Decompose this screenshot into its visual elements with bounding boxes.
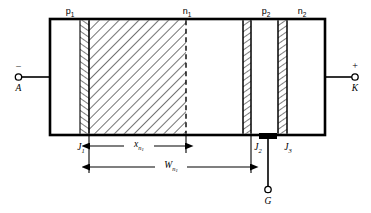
j2-strip-fill: [243, 20, 251, 133]
j3-strip-fill: [278, 20, 287, 133]
anode-terminal-node[interactable]: [15, 74, 21, 80]
label-n2: n2: [298, 6, 307, 18]
layer-labels: p1 n1 p2 n2: [66, 6, 307, 18]
j1-strip-fill: [80, 20, 89, 133]
label-j1: J1: [77, 142, 84, 154]
anode-polarity-sign: −: [16, 61, 22, 72]
label-p2: p2: [262, 6, 271, 18]
figure-svg: p1 n1 p2 n2 − A + K G J1 J2 J3 x: [0, 0, 371, 213]
cathode-label: K: [351, 83, 359, 93]
gate-terminal-node[interactable]: [265, 186, 271, 192]
dimension-xn1: xn1: [90, 139, 185, 153]
gate-terminal: G: [259, 133, 277, 206]
anode-label: A: [15, 83, 22, 93]
junction-j2-strip: [243, 20, 251, 133]
n1-drift-region: [89, 20, 186, 133]
cathode-terminal: + K: [325, 60, 359, 93]
label-p1: p1: [66, 6, 75, 18]
anode-terminal: − A: [15, 61, 50, 93]
label-n1: n1: [183, 6, 192, 18]
junction-j3-strip: [278, 20, 287, 133]
junction-j1-strip: [80, 20, 89, 133]
junction-labels: J1 J2 J3: [77, 142, 292, 154]
label-j3: J3: [284, 142, 292, 154]
gate-label: G: [265, 196, 272, 206]
gate-contact-pad: [259, 133, 277, 139]
cathode-polarity-sign: +: [352, 60, 358, 71]
cathode-terminal-node[interactable]: [352, 74, 358, 80]
dimension-wn1: Wn1: [90, 160, 250, 174]
label-j2: J2: [254, 142, 262, 154]
thyristor-cross-section-figure: p1 n1 p2 n2 − A + K G J1 J2 J3 x: [0, 0, 371, 213]
n1-drift-fill: [89, 20, 186, 133]
